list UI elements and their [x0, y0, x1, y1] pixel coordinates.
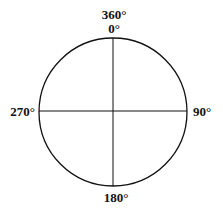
label-90: 90°	[193, 104, 211, 119]
label-0: 0°	[108, 21, 120, 36]
label-270: 270°	[10, 104, 35, 119]
compass-diagram: 360° 0° 90° 180° 270°	[0, 0, 223, 208]
label-180: 180°	[104, 190, 129, 205]
label-360: 360°	[102, 7, 127, 22]
